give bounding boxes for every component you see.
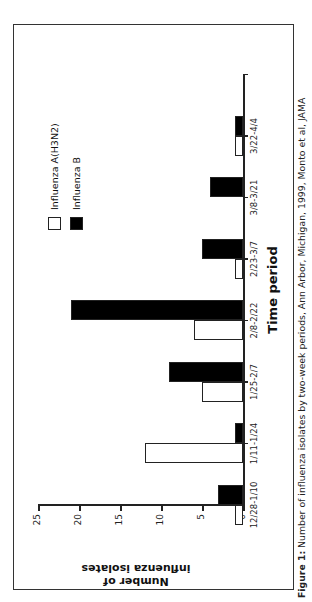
bar-influenza-b [235, 116, 243, 136]
y-tick-label: 15 [114, 514, 124, 536]
bar-influenza-b [71, 301, 243, 321]
y-tick [202, 505, 204, 511]
x-tick [243, 381, 248, 383]
y-tick-label: 5 [196, 514, 206, 536]
bar-influenza-b [235, 424, 243, 444]
y-axis-title-line2: influenza isolates [61, 562, 211, 575]
y-tick [38, 505, 40, 511]
x-tick [243, 197, 248, 199]
x-tick [243, 258, 248, 260]
legend-swatch-b [70, 217, 83, 230]
y-tick-label: 25 [32, 514, 42, 536]
legend: Influenza A(H3N2) Influenza B [43, 123, 87, 230]
bar-influenza-a [145, 444, 243, 464]
legend-swatch-a [48, 217, 61, 230]
x-tick-label: 12/28-1/10 [249, 475, 259, 535]
y-axis-title: Number of influenza isolates [61, 562, 211, 588]
legend-item-a: Influenza A(H3N2) [43, 123, 65, 230]
x-tick [243, 320, 248, 322]
caption-text: Number of influenza isolates by two-week… [296, 98, 307, 551]
y-tick-label: 10 [155, 514, 165, 536]
bar-influenza-a [235, 259, 243, 279]
y-tick [243, 505, 245, 511]
x-tick [243, 74, 248, 76]
x-axis-line [243, 74, 245, 506]
x-tick-label: 3/8-3/21 [249, 168, 259, 228]
y-tick-label: 20 [73, 514, 83, 536]
figure-caption: Figure 1: Number of influenza isolates b… [296, 0, 310, 598]
bar-chart: Number of influenza isolates 0510152025 … [13, 24, 294, 590]
x-tick-label: 2/23-3/7 [249, 229, 259, 289]
y-axis-line [38, 505, 244, 507]
bar-influenza-b [169, 362, 243, 382]
x-axis-title: Time period [265, 190, 280, 390]
x-tick [243, 443, 248, 445]
x-tick [243, 135, 248, 137]
y-axis-title-line1: Number of [61, 575, 211, 588]
bar-influenza-b [218, 485, 243, 505]
y-tick [120, 505, 122, 511]
bar-influenza-b [210, 178, 243, 198]
legend-label-b: Influenza B [71, 157, 82, 210]
x-tick-label: 1/25-2/7 [249, 352, 259, 412]
caption-label: Figure 1: [296, 551, 307, 598]
bar-influenza-a [194, 321, 243, 341]
bar-influenza-b [202, 239, 243, 259]
bar-influenza-a [235, 505, 243, 525]
y-tick [79, 505, 81, 511]
x-tick-label: 1/11-1/24 [249, 414, 259, 474]
x-tick-label: 3/22-4/4 [249, 106, 259, 166]
bar-influenza-a [202, 382, 243, 402]
x-tick-label: 2/8-2/22 [249, 291, 259, 351]
bar-influenza-a [235, 136, 243, 156]
chart-rotated-container: Number of influenza isolates 0510152025 … [13, 24, 294, 590]
legend-label-a: Influenza A(H3N2) [49, 123, 60, 210]
legend-item-b: Influenza B [65, 123, 87, 230]
y-tick [161, 505, 163, 511]
